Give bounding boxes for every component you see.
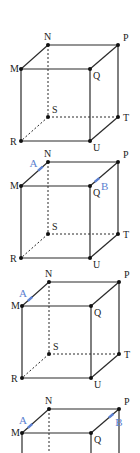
point-B-marker [109,414,114,418]
vertex-M [19,67,23,71]
vertex-label-M: M [10,180,19,191]
vertex-label-T: T [124,349,130,360]
point-B-marker [95,178,100,182]
vertex-U [88,139,92,143]
vertex-P [116,160,120,164]
vertex-label-S: S [52,104,58,115]
vertex-label-N: N [44,148,51,159]
vertex-N [46,160,50,164]
vertex-N [47,280,51,284]
vertex-label-P: P [124,396,130,407]
edge-MN [21,45,48,69]
vertex-label-P: P [124,269,130,280]
vertex-label-Q: Q [94,307,102,318]
point-label-B: B [101,180,108,192]
vertex-S [46,232,50,236]
vertex-U [88,256,92,260]
vertex-S [46,115,50,119]
vertex-label-P: P [123,32,129,43]
edge-UT [90,234,118,258]
vertex-label-Q: Q [94,434,102,445]
vertex-label-N: N [45,268,52,279]
cube-diagrams: MNPQRSTUMNPQRSTUABMNPQRSTUAMNPQAB [0,0,140,453]
vertex-P [116,43,120,47]
vertex-Q [88,184,92,188]
vertex-Q [88,67,92,71]
vertex-label-N: N [45,395,52,406]
vertex-label-S: S [53,341,59,352]
point-label-A: A [19,414,27,426]
vertex-R [20,376,24,380]
vertex-label-N: N [44,31,51,42]
edge-UT [91,354,119,378]
vertex-R [19,139,23,143]
vertex-P [117,407,121,411]
point-label-A: A [19,287,27,299]
vertex-T [116,115,120,119]
vertex-label-M: M [11,300,20,311]
vertex-R [19,256,23,260]
edge-PQ [90,45,118,69]
vertex-label-M: M [10,63,19,74]
vertex-T [117,352,121,356]
vertex-label-P: P [123,149,129,160]
vertex-label-R: R [10,136,17,147]
vertex-T [116,232,120,236]
point-A-marker [38,167,42,171]
vertex-label-T: T [123,229,129,240]
point-A-marker [28,424,32,428]
vertex-Q [89,431,93,435]
vertex-label-M: M [11,427,20,438]
edge-UT [90,117,118,141]
vertex-label-R: R [10,253,17,264]
hidden-edge-SR [21,234,48,258]
vertex-label-S: S [52,221,58,232]
point-A-marker [28,297,32,301]
vertex-M [20,431,24,435]
vertex-Q [89,304,93,308]
hidden-edge-SR [21,117,48,141]
vertex-label-Q: Q [93,70,101,81]
vertex-label-U: U [93,259,101,270]
hidden-edge-SR [22,354,49,378]
vertex-label-U: U [94,379,102,390]
vertex-P [117,280,121,284]
vertex-M [20,304,24,308]
vertex-N [46,43,50,47]
vertex-S [47,352,51,356]
vertex-N [47,407,51,411]
vertex-M [19,184,23,188]
vertex-label-U: U [93,142,101,153]
vertex-label-T: T [123,112,129,123]
point-label-B: B [115,416,122,428]
vertex-U [89,376,93,380]
vertex-label-Q: Q [93,187,101,198]
point-label-A: A [29,157,37,169]
edge-PQ [91,282,119,306]
vertex-label-R: R [11,373,18,384]
